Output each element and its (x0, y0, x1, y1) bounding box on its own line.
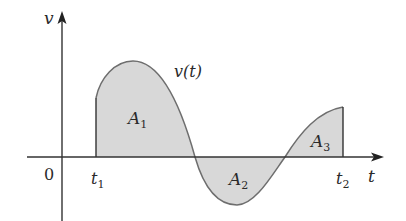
velocity-area-diagram: v t 0 t1 t2 v(t) A1 A2 A3 (0, 0, 406, 221)
t2-label: t2 (336, 169, 349, 191)
t1-label: t1 (91, 169, 104, 191)
curve-label: v(t) (174, 62, 202, 81)
shaded-area-region (96, 61, 343, 205)
v-axis-label: v (44, 8, 54, 28)
t-axis-label: t (368, 166, 375, 186)
origin-label: 0 (44, 165, 54, 184)
